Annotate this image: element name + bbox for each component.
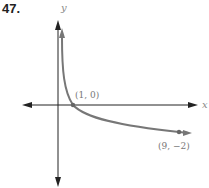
point-9-neg2 (177, 130, 181, 134)
y-axis-label: y (60, 2, 67, 13)
x-axis (22, 102, 198, 108)
log-curve (59, 28, 192, 136)
y-axis (55, 20, 61, 187)
point-label-9-neg2: (9, −2) (158, 141, 190, 151)
x-axis-label: x (202, 99, 208, 110)
graph: y x (1, 0) (9, −2) (0, 0, 209, 188)
point-1-0 (71, 103, 75, 107)
point-label-1-0: (1, 0) (75, 90, 99, 100)
